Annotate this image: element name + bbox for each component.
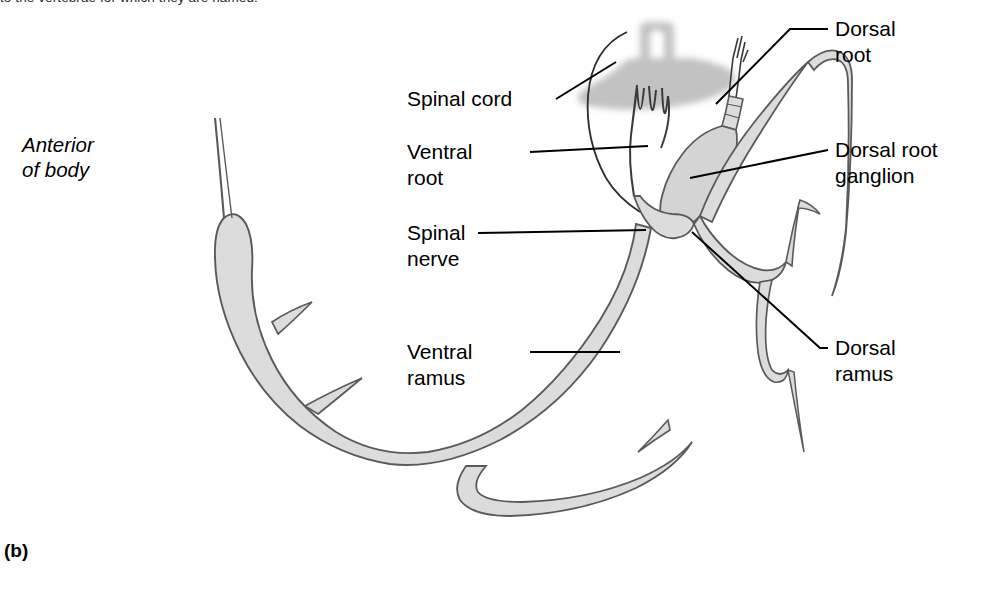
figure-part-letter: (b) [4,540,28,562]
label-dorsal-ramus: Dorsal ramus [835,335,896,386]
label-dorsal-root-ganglion: Dorsal root ganglion [835,137,938,188]
dorsal-ramus-distal-branch [788,370,804,452]
lower-nerve-loop [457,442,692,516]
label-dorsal-root-ganglion-line2: ganglion [835,163,938,189]
orientation-label-line1: Anterior [22,132,94,157]
label-dorsal-root: Dorsal root [835,16,896,67]
label-ventral-ramus-line2: ramus [407,365,472,391]
label-spinal-cord-line1: Spinal cord [407,86,512,112]
ventral-ramus-branch-1 [305,378,362,414]
orientation-label-line2: of body [22,157,94,182]
nerve-cut-end-arrow [638,420,670,452]
label-spinal-nerve: Spinal nerve [407,220,465,271]
orientation-label: Anterior of body [22,132,94,182]
leader-spinal-nerve [478,230,646,233]
label-ventral-ramus-line1: Ventral [407,339,472,365]
label-spinal-nerve-line2: nerve [407,246,465,272]
label-dorsal-root-ganglion-line1: Dorsal root [835,137,938,163]
ventral-ramus-superior-branch [215,118,224,218]
label-spinal-nerve-line1: Spinal [407,220,465,246]
dorsal-ramus [694,216,786,283]
label-dorsal-ramus-line1: Dorsal [835,335,896,361]
label-ventral-root: Ventral root [407,139,472,190]
spinal-cord-gray-matter [578,22,735,110]
label-dorsal-root-line1: Dorsal [835,16,896,42]
ventral-root-rootlets [630,85,669,196]
dorsal-ramus-small-hook [798,200,820,214]
dorsal-ramus-branch-upper [786,200,800,266]
figure-canvas: to the vertebrae for which they are name… [0,0,1004,590]
label-dorsal-root-line2: root [835,42,896,68]
label-ventral-root-line2: root [407,165,472,191]
label-ventral-ramus: Ventral ramus [407,339,472,390]
label-ventral-root-line1: Ventral [407,139,472,165]
label-dorsal-ramus-line2: ramus [835,361,896,387]
ventral-ramus-branch-2 [272,302,312,334]
label-spinal-cord: Spinal cord [407,86,512,112]
dorsal-root-trunk [722,96,743,130]
